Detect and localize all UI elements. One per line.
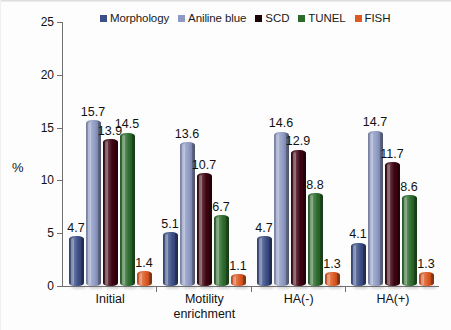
bar: 14.5	[120, 133, 135, 286]
bar: 8.8	[308, 193, 323, 286]
y-tick-label: 5	[47, 227, 54, 239]
x-axis-label: HA(-)	[252, 292, 346, 322]
scan-left-border	[0, 0, 1, 330]
bar-slot: 1.3	[418, 22, 435, 286]
bar: 1.1	[231, 274, 246, 286]
bar-slot: 6.7	[213, 22, 230, 286]
bar-group: 4.715.713.914.51.4	[63, 22, 157, 286]
y-tick-label: 10	[41, 174, 54, 186]
bar-value-label: 1.3	[323, 258, 340, 271]
y-tick-mark	[57, 22, 62, 23]
x-axis-label: Initial	[63, 292, 157, 322]
bar: 8.6	[402, 195, 417, 286]
bar-slot: 1.4	[136, 22, 153, 286]
bar: 5.1	[163, 232, 178, 286]
bar: 6.7	[214, 215, 229, 286]
y-tick-mark	[57, 128, 62, 129]
bar-slot: 12.9	[290, 22, 307, 286]
x-axis-labels: InitialMotility enrichmentHA(-)HA(+)	[63, 292, 440, 322]
bar-slot: 1.1	[230, 22, 247, 286]
bar-value-label: 8.6	[400, 181, 417, 194]
bar-value-label: 8.8	[306, 179, 323, 192]
bar-group: 5.113.610.76.71.1	[157, 22, 251, 286]
y-tick-mark	[57, 286, 62, 287]
bar: 1.3	[419, 272, 434, 286]
bar-groups: 4.715.713.914.51.45.113.610.76.71.14.714…	[63, 22, 439, 286]
y-axis-title: %	[12, 160, 24, 175]
y-tick-mark	[57, 180, 62, 181]
bar: 12.9	[291, 150, 306, 286]
bar-slot: 13.9	[102, 22, 119, 286]
bar-value-label: 1.3	[417, 258, 434, 271]
bar: 10.7	[197, 173, 212, 286]
bar-value-label: 4.7	[255, 222, 272, 235]
bar-slot: 11.7	[384, 22, 401, 286]
y-tick-label: 25	[41, 16, 54, 28]
bar-value-label: 4.1	[349, 228, 366, 241]
y-tick-mark	[57, 233, 62, 234]
bar: 4.7	[69, 236, 84, 286]
bar: 1.3	[325, 272, 340, 286]
bar: 13.9	[103, 139, 118, 286]
y-tick-label: 15	[41, 122, 54, 134]
bar: 11.7	[385, 162, 400, 286]
bar: 1.4	[137, 271, 152, 286]
bar-slot: 1.3	[324, 22, 341, 286]
bar-slot: 14.6	[273, 22, 290, 286]
bar-slot: 13.6	[179, 22, 196, 286]
x-axis-label: Motility enrichment	[157, 292, 251, 322]
x-axis-label: HA(+)	[346, 292, 440, 322]
bar-slot: 14.5	[119, 22, 136, 286]
scan-top-border	[0, 0, 451, 2]
bar-value-label: 5.1	[161, 218, 178, 231]
bar-slot: 4.7	[256, 22, 273, 286]
plot-area: 0510152025 4.715.713.914.51.45.113.610.7…	[62, 22, 439, 287]
bar: 4.1	[351, 243, 366, 286]
bar-slot: 15.7	[85, 22, 102, 286]
bar-slot: 8.8	[307, 22, 324, 286]
bar-value-label: 6.7	[212, 201, 229, 214]
bar-slot: 8.6	[401, 22, 418, 286]
y-tick-label: 0	[47, 280, 54, 292]
bar-group: 4.714.612.98.81.3	[251, 22, 345, 286]
bar-slot: 10.7	[196, 22, 213, 286]
bar-value-label: 4.7	[67, 222, 84, 235]
bar-value-label: 1.1	[229, 260, 246, 273]
bar-group: 4.114.711.78.61.3	[345, 22, 439, 286]
y-tick-label: 20	[41, 69, 54, 81]
bar: 14.6	[274, 132, 289, 286]
bar-chart: MorphologyAniline blueSCDTUNELFISH % 051…	[0, 0, 451, 330]
bar-slot: 4.1	[350, 22, 367, 286]
bar-value-label: 1.4	[135, 257, 152, 270]
bar: 4.7	[257, 236, 272, 286]
bar-slot: 4.7	[68, 22, 85, 286]
y-tick-mark	[57, 75, 62, 76]
bar: 15.7	[86, 120, 101, 286]
bar-slot: 5.1	[162, 22, 179, 286]
